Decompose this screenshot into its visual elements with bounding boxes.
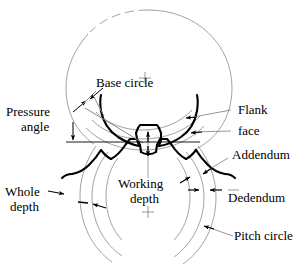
label-whole-depth-line2: depth xyxy=(10,199,39,214)
pressure-angle-callout xyxy=(66,91,200,143)
base-circle-leader-extension xyxy=(94,97,104,116)
whole-depth-arrow-right xyxy=(93,204,106,208)
upper-right-tooth-flank xyxy=(159,111,197,146)
line-of-action-upper xyxy=(82,91,96,105)
lower-base-circle-right xyxy=(174,158,190,240)
whole-depth-tick xyxy=(78,202,88,203)
label-pressure-angle-line1: Pressure xyxy=(6,104,50,119)
lower-left-tooth-flank2 xyxy=(111,144,126,159)
upper-addendum-arc-left xyxy=(66,34,94,144)
label-dedendum: Dedendum xyxy=(228,191,285,205)
label-working-depth-line2: depth xyxy=(130,191,159,206)
label-base-circle: Base circle xyxy=(96,76,153,90)
label-pressure-angle-line2: angle xyxy=(21,119,49,134)
lower-gear-tooth-profile xyxy=(62,139,235,178)
label-face: face xyxy=(238,124,260,138)
upper-left-tooth-flank xyxy=(101,111,139,146)
lower-gear-center-mark xyxy=(142,206,154,218)
lower-addendum-circle-left xyxy=(80,146,112,262)
label-pitch-circle: Pitch circle xyxy=(234,229,293,243)
pitch-circle-arrow xyxy=(204,226,214,229)
upper-gear-tooth-profile xyxy=(100,95,198,146)
lower-addendum-circle-right xyxy=(183,146,216,264)
line-of-action-lower xyxy=(85,108,143,143)
label-whole-depth-line1: Whole xyxy=(5,184,40,199)
lower-pitch-circle-left xyxy=(92,152,122,256)
upper-center-tooth-right xyxy=(159,128,161,146)
lower-far-left-tooth-tip xyxy=(62,174,72,178)
label-addendum: Addendum xyxy=(232,148,290,162)
lower-far-right-tooth-tip xyxy=(225,174,235,178)
upper-addendum-arc-dashed xyxy=(90,10,148,32)
lower-base-circle-left xyxy=(106,158,122,240)
gear-terminology-figure: Base circle Pressure angle Flank face Ad… xyxy=(0,0,308,270)
pitch-circle-arrow-group xyxy=(204,226,214,229)
label-flank: Flank xyxy=(238,103,268,117)
lower-right-tooth-flank2 xyxy=(171,144,186,159)
lower-left-root-notch xyxy=(101,150,111,159)
upper-right-tooth-tip xyxy=(197,95,198,111)
upper-root-circle-arc xyxy=(96,110,192,130)
upper-center-tooth-crown xyxy=(138,125,159,128)
lower-center-right-crown xyxy=(160,139,171,144)
addendum-arrow xyxy=(203,168,212,174)
whole-depth-arrow-left xyxy=(48,191,64,194)
label-working-depth-line1: Working xyxy=(118,176,163,191)
lower-pitch-circle-right xyxy=(174,152,204,257)
whole-depth-dimension xyxy=(48,191,106,208)
